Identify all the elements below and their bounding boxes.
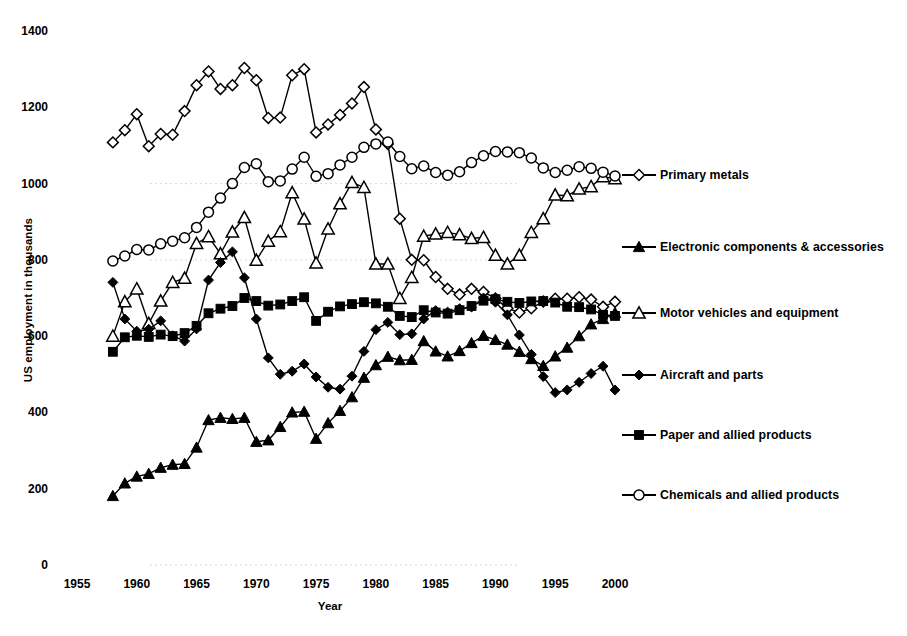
legend-label: Motor vehicles and equipment (660, 306, 838, 320)
open-circle-marker (287, 164, 297, 174)
open-triangle-marker (537, 213, 549, 224)
open-diamond-marker (215, 84, 226, 95)
filled-triangle-marker (418, 335, 429, 345)
open-diamond-marker (131, 109, 142, 120)
open-diamond-marker (359, 82, 370, 93)
filled-square-marker (312, 316, 321, 325)
open-circle-marker (562, 165, 572, 175)
open-diamond-marker (179, 106, 190, 117)
legend-item[interactable]: Paper and allied products (620, 425, 812, 445)
legend-marker-filled-triangle (620, 238, 658, 256)
open-circle-marker (251, 159, 261, 169)
open-circle-marker (263, 177, 273, 187)
filled-diamond-marker (610, 385, 620, 395)
open-circle-marker (419, 161, 429, 171)
series-canvas (0, 0, 660, 600)
open-triangle-marker (298, 213, 310, 224)
open-circle-marker (610, 171, 620, 181)
filled-diamond-marker (550, 388, 560, 398)
open-circle-marker (526, 153, 536, 163)
legend-label: Aircraft and parts (660, 368, 763, 382)
filled-triangle-marker (466, 337, 477, 347)
open-triangle-marker (441, 226, 453, 237)
open-diamond-marker (610, 296, 621, 307)
filled-diamond-marker (574, 377, 584, 387)
filled-diamond-marker (371, 325, 381, 335)
legend-marker-open-circle (620, 486, 658, 504)
filled-triangle-marker (490, 334, 501, 344)
open-triangle-marker (131, 283, 143, 294)
open-circle-marker (490, 147, 500, 157)
filled-square-marker (300, 293, 309, 302)
filled-square-marker (252, 297, 261, 306)
open-circle-marker (168, 236, 178, 246)
open-diamond-marker (167, 129, 178, 140)
legend-item[interactable]: Electronic components & accessories (620, 237, 884, 257)
filled-triangle-marker (143, 468, 154, 478)
filled-square-marker (611, 312, 620, 321)
filled-triangle-marker (478, 330, 489, 340)
filled-square-marker (264, 301, 273, 310)
filled-triangle-marker (179, 458, 190, 468)
filled-square-marker (419, 306, 428, 315)
open-circle-marker (502, 147, 512, 157)
filled-diamond-marker (586, 369, 596, 379)
legend-item[interactable]: Aircraft and parts (620, 365, 763, 385)
open-triangle-marker (513, 249, 525, 260)
open-triangle-marker (178, 272, 190, 283)
filled-triangle-marker (239, 412, 250, 422)
legend-marker-open-triangle (620, 304, 658, 322)
open-circle-marker (299, 152, 309, 162)
open-diamond-marker (311, 127, 322, 138)
filled-triangle-marker (299, 406, 310, 416)
open-circle-marker (335, 160, 345, 170)
filled-square-marker (455, 306, 464, 315)
filled-diamond-marker (562, 385, 572, 395)
open-diamond-marker (454, 289, 465, 300)
filled-triangle-marker (454, 345, 465, 355)
filled-square-marker (336, 302, 345, 311)
filled-diamond-marker (514, 330, 524, 340)
filled-square-marker (491, 295, 500, 304)
open-circle-marker (467, 158, 477, 168)
filled-square-marker (192, 321, 201, 330)
filled-triangle-marker (346, 392, 357, 402)
filled-diamond-marker (275, 369, 285, 379)
open-triangle-marker (310, 257, 322, 268)
open-triangle-marker (406, 271, 418, 282)
legend-item[interactable]: Motor vehicles and equipment (620, 303, 838, 323)
open-circle-marker (586, 163, 596, 173)
legend-marker-filled-square (620, 426, 658, 444)
filled-square-marker (156, 330, 165, 339)
open-circle-marker (239, 163, 249, 173)
open-diamond-marker (394, 213, 405, 224)
open-triangle-marker (238, 211, 250, 222)
open-circle-marker (227, 179, 237, 189)
filled-square-marker (371, 299, 380, 308)
chart-legend: Primary metalsElectronic components & ac… (620, 155, 907, 495)
filled-diamond-marker (598, 361, 608, 371)
x-axis-title: Year (0, 600, 660, 612)
legend-label: Chemicals and allied products (660, 488, 839, 502)
filled-triangle-marker (514, 346, 525, 356)
series-line (113, 142, 615, 261)
filled-square-marker (479, 296, 488, 305)
filled-triangle-marker (119, 478, 130, 488)
filled-square-marker (551, 298, 560, 307)
open-circle-marker (455, 167, 465, 177)
legend-item[interactable]: Chemicals and allied products (620, 485, 839, 505)
filled-square-marker (539, 297, 548, 306)
open-triangle-marker (202, 230, 214, 241)
filled-square-marker (240, 294, 249, 303)
filled-square-marker (180, 329, 189, 338)
filled-diamond-marker (239, 273, 249, 283)
open-circle-marker (514, 148, 524, 158)
open-circle-marker (395, 151, 405, 161)
open-circle-marker (538, 163, 548, 173)
filled-square-marker (132, 331, 141, 340)
open-triangle-marker (262, 235, 274, 246)
open-diamond-marker (514, 307, 525, 318)
filled-square-marker (587, 305, 596, 314)
open-circle-marker (323, 169, 333, 179)
legend-item[interactable]: Primary metals (620, 165, 749, 185)
